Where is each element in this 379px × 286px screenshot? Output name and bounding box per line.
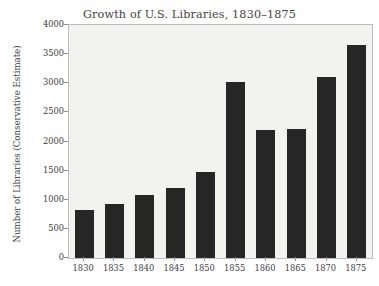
bar-slot [69,25,99,258]
x-tick-mark [235,257,236,261]
bar-slot [190,25,220,258]
y-tick-label-4000: 4000 [4,20,64,28]
bar-slot [281,25,311,258]
y-tick-label-3000: 3000 [4,78,64,86]
y-tick-label-500: 500 [4,224,64,232]
x-tick-mark [356,257,357,261]
y-tick-label-0: 0 [4,253,64,261]
bar-1835[interactable] [105,204,124,258]
x-tick-mark [83,257,84,261]
bar-1850[interactable] [196,172,215,258]
bar-1860[interactable] [256,130,275,258]
x-tick-mark [265,257,266,261]
bar-slot [130,25,160,258]
y-tick-label-3500: 3500 [4,49,64,57]
bar-1840[interactable] [135,195,154,258]
bar-slot [160,25,190,258]
x-tick-label-1875: 1875 [336,263,376,273]
bar-slot [251,25,281,258]
bar-1865[interactable] [287,129,306,258]
x-tick-mark [204,257,205,261]
x-tick-mark [144,257,145,261]
bar-1845[interactable] [166,188,185,258]
x-tick-mark [174,257,175,261]
bar-1875[interactable] [347,45,366,258]
bar-slot [342,25,372,258]
bar-1870[interactable] [317,77,336,258]
plot-area [68,24,373,259]
bar-1830[interactable] [75,210,94,258]
x-tick-mark [326,257,327,261]
y-tick-label-2500: 2500 [4,107,64,115]
bar-slot [220,25,250,258]
bar-series [69,25,372,258]
chart-figure: Growth of U.S. Libraries, 1830–1875 Numb… [0,0,379,286]
x-tick-mark [295,257,296,261]
x-tick-mark [113,257,114,261]
bar-slot [311,25,341,258]
y-tick-label-2000: 2000 [4,137,64,145]
y-tick-label-1500: 1500 [4,166,64,174]
bar-slot [99,25,129,258]
y-tick-label-1000: 1000 [4,195,64,203]
bar-1855[interactable] [226,82,245,258]
